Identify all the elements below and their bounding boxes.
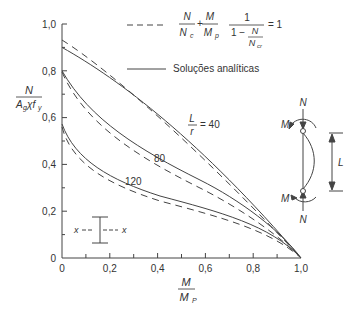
svg-text:N: N [25,84,33,96]
column-N-top: N [299,97,307,108]
svg-text:cr: cr [257,43,263,49]
svg-text:1 −: 1 − [231,27,245,38]
svg-text:0: 0 [50,253,56,264]
x-axis-label: M M P [178,276,197,304]
svg-text:L: L [189,113,195,124]
svg-text:y: y [37,104,42,112]
svg-text:M: M [206,11,215,22]
svg-text:p: p [214,32,219,40]
svg-text:0,8: 0,8 [42,66,56,77]
column-L: L [338,157,344,168]
svg-text:c: c [190,32,194,39]
svg-text:Soluções analíticas: Soluções analíticas [173,63,259,74]
series-lr120 [62,124,301,258]
svg-text:N: N [179,27,187,38]
svg-text:0,6: 0,6 [42,112,56,123]
svg-text:= 1: = 1 [268,19,283,30]
svg-text:0,6: 0,6 [198,263,212,274]
svg-text:+: + [197,18,203,29]
y-tick-labels: 0 0,2 0,4 0,6 0,8 1,0 [42,19,56,264]
svg-text:0,2: 0,2 [103,263,117,274]
svg-text:0,2: 0,2 [42,206,56,217]
svg-text:A: A [15,99,23,110]
curve-label-120: 120 [125,176,142,187]
series-lr80 [62,71,301,258]
column-M-top: M [281,119,290,130]
svg-text:r: r [190,126,194,137]
svg-text:0,4: 0,4 [151,263,165,274]
svg-text:M: M [204,27,213,38]
svg-text:1,0: 1,0 [42,19,56,30]
y-axis-label: N A g χf y [15,84,42,112]
svg-text:= 40: = 40 [200,119,220,130]
section-icon [82,217,118,243]
svg-text:1,0: 1,0 [294,263,308,274]
section-x-right: x [121,225,127,235]
curve-label-80: 80 [154,153,166,164]
svg-text:N: N [249,38,256,48]
svg-text:χf: χf [26,99,36,110]
x-tick-labels: 0 0,2 0,4 0,6 0,8 1,0 [59,263,308,274]
svg-text:M: M [179,291,189,303]
column-diagram [289,109,343,211]
svg-text:0,4: 0,4 [42,159,56,170]
interaction-chart: 0 0,2 0,4 0,6 0,8 1,0 0 0,2 0,4 0,6 0,8 … [0,0,353,310]
legend: N N c + M M p 1 1 − N N cr = 1 Soluções … [127,11,283,74]
axes [62,24,301,258]
svg-text:1: 1 [244,12,250,23]
curve-label-40: L r = 40 [188,113,220,137]
svg-text:M: M [181,276,191,288]
svg-text:N: N [183,11,191,22]
svg-text:P: P [192,297,197,304]
section-x-left: x [73,225,79,235]
column-M-bottom: M [281,193,290,204]
svg-text:0,8: 0,8 [246,263,260,274]
svg-text:0: 0 [59,263,65,274]
column-N-bottom: N [299,214,307,225]
svg-text:N: N [252,26,259,36]
